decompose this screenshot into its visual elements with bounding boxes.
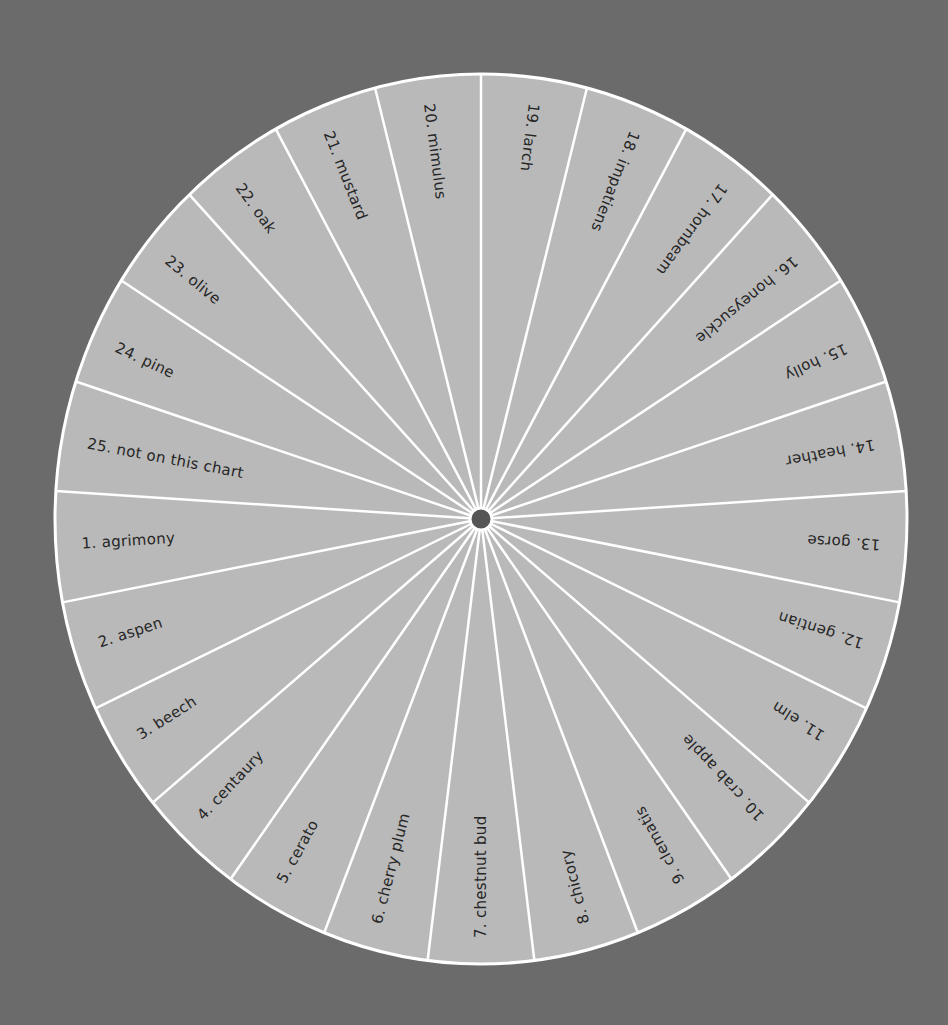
segment-label-7: 7. chestnut bud	[472, 816, 490, 938]
center-hub	[470, 508, 492, 530]
flower-remedy-wheel: 19. larch18. impatiens17. hornbeam16. ho…	[0, 0, 948, 1025]
